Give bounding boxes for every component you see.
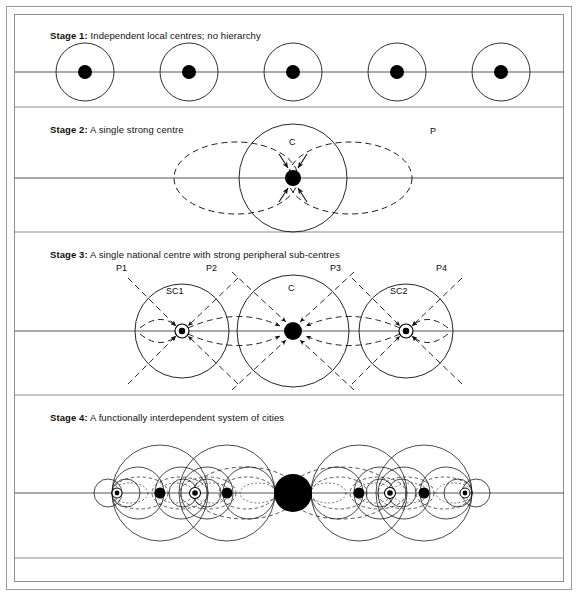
periphery-flow: [300, 272, 354, 322]
sub-centre-node: [115, 491, 120, 496]
local-centre-node: [494, 65, 508, 79]
regional-centre-node: [354, 488, 365, 499]
stage-3-number: Stage 3:: [50, 249, 88, 260]
periphery-flow: [188, 278, 238, 326]
hinterland-arc: [188, 334, 280, 346]
label-p1: P1: [116, 263, 127, 273]
label-p4: P4: [436, 263, 447, 273]
flow-arrow: [298, 188, 307, 202]
sub-centre-node-sc1: [179, 328, 185, 334]
label-sc2: SC2: [390, 286, 408, 296]
stage-4-title: A functionally interdependent system of …: [88, 412, 284, 423]
stage-4-label: Stage 4: A functionally interdependent s…: [50, 412, 284, 423]
stage-1-number: Stage 1:: [50, 30, 88, 41]
label-c-stage2: C: [289, 137, 296, 147]
hinterland-arc: [188, 316, 280, 328]
sub-centre-node: [463, 491, 468, 496]
periphery-flow: [412, 336, 462, 384]
local-centre-node: [78, 65, 92, 79]
stage-2-label: Stage 2: A single strong centre: [50, 124, 184, 135]
sub-centre-node: [387, 490, 393, 496]
national-centre-node: [284, 322, 302, 340]
periphery-flow: [300, 340, 354, 390]
periphery-flow: [352, 336, 400, 384]
stage-2-number: Stage 2:: [50, 124, 88, 135]
stage-2-title: A single strong centre: [88, 124, 184, 135]
label-c-stage3: C: [288, 283, 295, 293]
stage-3-label: Stage 3: A single national centre with s…: [50, 249, 340, 260]
sub-centre-node-sc2: [403, 328, 409, 334]
local-centre-node: [286, 65, 300, 79]
periphery-flow: [128, 336, 176, 384]
hinterland-arc: [306, 334, 400, 346]
national-centre-node: [285, 170, 301, 186]
figure-root: Stage 1: Independent local centres; no h…: [0, 0, 580, 598]
stage-3-title: A single national centre with strong per…: [88, 249, 340, 260]
diagram-canvas: [0, 0, 580, 598]
local-centre-node: [390, 65, 404, 79]
local-centre-node: [182, 65, 196, 79]
flow-arrow: [298, 154, 307, 168]
label-sc1: SC1: [166, 286, 184, 296]
flow-arrow: [279, 188, 288, 202]
periphery-flow: [232, 272, 286, 322]
national-centre-node: [274, 474, 312, 512]
label-p3: P3: [330, 263, 341, 273]
regional-centre-node: [419, 488, 430, 499]
periphery-flow: [412, 278, 462, 326]
stage-4-number: Stage 4:: [50, 412, 88, 423]
label-p-stage2: P: [430, 126, 436, 136]
regional-centre-node: [222, 488, 233, 499]
periphery-flow: [188, 336, 238, 384]
regional-centre-node: [155, 488, 166, 499]
label-p2: P2: [206, 263, 217, 273]
hinterland-arc: [306, 316, 400, 328]
stage-1-title: Independent local centres; no hierarchy: [88, 30, 261, 41]
stage-1-label: Stage 1: Independent local centres; no h…: [50, 30, 261, 41]
stage-4-graphic: [15, 445, 564, 541]
flow-arrow: [279, 154, 288, 168]
stage-1-graphic: [15, 43, 564, 101]
periphery-flow: [232, 340, 286, 390]
sub-centre-node: [192, 490, 198, 496]
